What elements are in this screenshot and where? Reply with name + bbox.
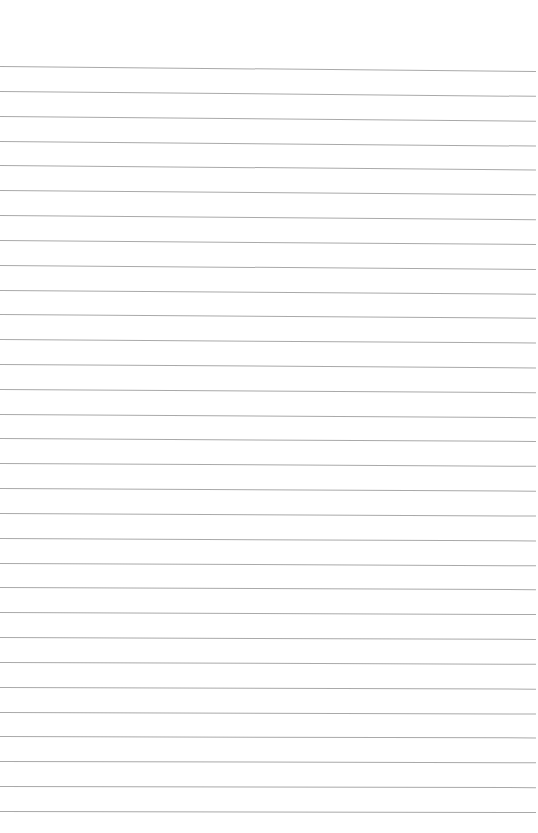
ruled-line <box>0 438 536 442</box>
ruled-line <box>0 538 536 541</box>
ruled-line <box>0 265 536 270</box>
ruled-line <box>0 811 536 813</box>
ruled-line <box>0 215 536 220</box>
ruled-line <box>0 190 536 195</box>
ruled-line <box>0 66 536 72</box>
ruled-line <box>0 364 536 368</box>
ruled-line <box>0 662 536 665</box>
ruled-line <box>0 736 536 738</box>
ruled-line <box>0 414 536 418</box>
ruled-line <box>0 786 536 788</box>
ruled-line <box>0 141 536 147</box>
ruled-line <box>0 761 536 763</box>
ruled-line <box>0 165 536 170</box>
ruled-line <box>0 587 536 590</box>
lined-paper-page <box>0 0 538 833</box>
ruled-line <box>0 637 536 640</box>
ruled-line <box>0 339 536 344</box>
ruled-line <box>0 91 536 97</box>
ruled-line <box>0 488 536 492</box>
ruled-line <box>0 463 536 467</box>
ruled-line <box>0 314 536 319</box>
ruled-line <box>0 116 536 122</box>
ruled-line <box>0 563 536 566</box>
ruled-line <box>0 687 536 690</box>
ruled-line <box>0 612 536 615</box>
ruled-line <box>0 389 536 393</box>
ruled-line <box>0 712 536 715</box>
ruled-line <box>0 290 536 295</box>
ruled-line <box>0 513 536 517</box>
ruled-line <box>0 240 536 245</box>
